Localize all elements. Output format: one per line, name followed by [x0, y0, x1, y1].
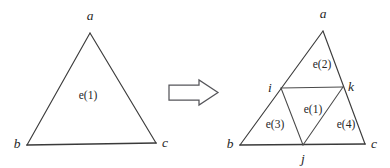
- refined-element-label-e1: e(1): [304, 103, 323, 116]
- coarse-element-label-e1: e(1): [79, 89, 98, 102]
- refined-inner-edge-i-k: [281, 87, 343, 88]
- coarse-triangle-group: a b c e(1): [14, 8, 168, 151]
- coarse-edge-b-c: [27, 143, 156, 145]
- coarse-vertex-label-a: a: [87, 8, 94, 23]
- refined-vertex-label-b: b: [227, 136, 234, 151]
- triangle-refinement-figure: a b c e(1) a b c i k j e(2): [0, 0, 390, 168]
- refined-inner-edge-k-j: [303, 87, 343, 145]
- refined-inner-edge-i-j: [281, 88, 303, 145]
- transformation-arrow-group: [169, 80, 218, 105]
- refined-element-label-e3: e(3): [266, 118, 285, 131]
- refined-vertex-label-c: c: [371, 136, 377, 151]
- refined-vertex-label-i: i: [268, 80, 272, 95]
- refined-element-label-e4: e(4): [337, 118, 356, 131]
- refined-vertex-label-k: k: [348, 79, 355, 94]
- coarse-edge-a-c: [90, 33, 156, 143]
- refined-vertex-label-a: a: [320, 6, 327, 21]
- refined-triangle-group: a b c i k j e(2) e(1) e(3) e(4): [227, 6, 377, 166]
- coarse-vertex-label-b: b: [14, 136, 21, 151]
- refined-vertex-label-j: j: [299, 151, 305, 166]
- arrow-right-icon: [169, 80, 218, 105]
- coarse-vertex-label-c: c: [162, 135, 168, 150]
- diagram-canvas: a b c e(1) a b c i k j e(2): [0, 0, 390, 168]
- refined-element-label-e2: e(2): [313, 58, 332, 71]
